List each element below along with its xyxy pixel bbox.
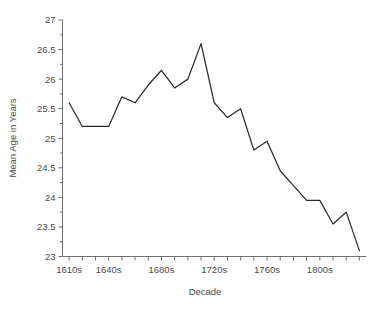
y-tick-label: 23.5 (37, 221, 56, 232)
y-tick-label: 27 (45, 14, 56, 25)
chart-canvas: 2323.52424.52525.52626.527 Mean Age in Y… (0, 0, 382, 309)
x-tick-label: 1640s (96, 264, 122, 275)
y-tick-label: 24 (45, 192, 56, 203)
y-tick-label: 26.5 (37, 44, 56, 55)
x-tick-label: 1610s (56, 264, 82, 275)
line-chart: 2323.52424.52525.52626.527 Mean Age in Y… (0, 0, 382, 309)
y-tick-label: 26 (45, 74, 56, 85)
x-axis-title: Decade (189, 286, 222, 297)
y-tick-label: 23 (45, 251, 56, 262)
x-tick-label: 1720s (201, 264, 227, 275)
x-tick-label: 1680s (149, 264, 175, 275)
y-axis-title: Mean Age in Years (7, 98, 18, 177)
y-tick-label: 24.5 (37, 162, 56, 173)
y-tick-label: 25.5 (37, 103, 56, 114)
x-tick-label: 1760s (254, 264, 280, 275)
y-tick-label: 25 (45, 133, 56, 144)
x-tick-label: 1800s (307, 264, 333, 275)
